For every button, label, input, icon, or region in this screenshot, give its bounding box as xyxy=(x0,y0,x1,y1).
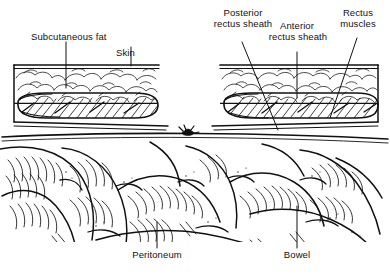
label-rectus-muscles-line2: muscles xyxy=(333,18,383,30)
deep-fascia-left xyxy=(14,122,168,130)
rectus-muscle-left xyxy=(18,93,159,118)
label-subcutaneous-fat: Subcutaneous fat xyxy=(31,31,107,43)
label-peritoneum: Peritoneum xyxy=(122,249,192,261)
subcutaneous-fat-left xyxy=(14,69,159,104)
label-anterior-rectus-sheath-line1: Anterior xyxy=(268,20,326,32)
peritoneum-layer xyxy=(2,133,388,143)
label-rectus-muscles-line1: Rectus xyxy=(336,7,380,19)
abdominal-wall-block-left xyxy=(14,65,168,130)
figure-root: Subcutaneous fat Skin Posterior rectus s… xyxy=(0,0,390,276)
subcutaneous-fat-right xyxy=(220,69,378,104)
label-skin: Skin xyxy=(116,47,135,59)
deep-fascia-right xyxy=(212,122,378,130)
label-bowel: Bowel xyxy=(275,249,319,261)
leader-lines xyxy=(66,38,357,248)
abdominal-wall-block-right xyxy=(212,65,378,130)
label-posterior-rectus-sheath-line1: Posterior xyxy=(213,7,273,19)
label-anterior-rectus-sheath-line2: rectus sheath xyxy=(261,31,335,43)
